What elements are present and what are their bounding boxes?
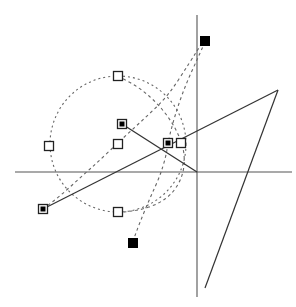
marker-crossed-square-lower-left [39, 205, 48, 214]
open-square-glyph [45, 142, 54, 151]
marker-open-square-circle-bottom [114, 208, 123, 217]
marker-open-square-right [177, 139, 186, 148]
marker-crossed-square-upper [118, 120, 127, 129]
figure-container [0, 0, 296, 307]
inner-fill-glyph [120, 122, 125, 127]
marker-filled-square-bottom [129, 239, 138, 248]
filled-square-glyph [201, 37, 210, 46]
marker-open-square-circle-top [114, 72, 123, 81]
marker-filled-square-top [201, 37, 210, 46]
marker-crossed-square-center [164, 139, 173, 148]
inner-fill-glyph [166, 141, 171, 146]
open-square-glyph [114, 208, 123, 217]
plot-background [0, 0, 296, 307]
geometry-plot [0, 0, 296, 307]
marker-open-square-mid-left [114, 140, 123, 149]
inner-fill-glyph [41, 207, 46, 212]
open-square-glyph [114, 140, 123, 149]
filled-square-glyph [129, 239, 138, 248]
marker-open-square-circle-left [45, 142, 54, 151]
open-square-glyph [177, 139, 186, 148]
open-square-glyph [114, 72, 123, 81]
